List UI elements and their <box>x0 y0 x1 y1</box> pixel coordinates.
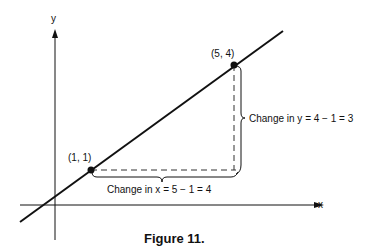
rise-brace <box>235 66 245 174</box>
x-axis-label: x <box>318 199 323 210</box>
figure-caption: Figure 11. <box>144 231 205 246</box>
slope-diagram: y x Change in x = 5 − 1 = 4 Change in y … <box>0 0 374 250</box>
y-axis-arrow-icon <box>52 29 58 38</box>
point-5-4 <box>231 62 238 69</box>
y-axis-label: y <box>51 13 56 24</box>
change-y-label: Change in y = 4 − 1 = 3 <box>249 113 354 124</box>
point-5-4-label: (5, 4) <box>211 48 234 59</box>
point-1-1-label: (1, 1) <box>68 152 91 163</box>
run-brace <box>92 172 238 182</box>
point-1-1 <box>88 167 95 174</box>
change-x-label: Change in x = 5 − 1 = 4 <box>107 184 212 195</box>
